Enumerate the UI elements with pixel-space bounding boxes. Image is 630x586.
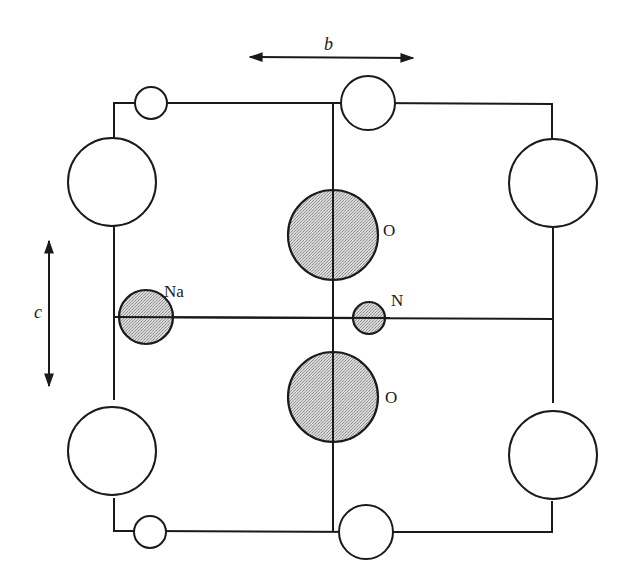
b-axis-indicator: b: [250, 34, 413, 58]
bottom-edge-right: [366, 501, 552, 532]
atom-medium-top-center: [341, 76, 395, 130]
atom-medium-bottom-center: [339, 505, 393, 559]
atom-small-top-left: [135, 87, 167, 119]
atom-large-lower-left: [68, 407, 156, 495]
sodium-label: Na: [164, 282, 184, 301]
atom-large-lower-right: [509, 411, 597, 499]
top-edge-right: [368, 103, 552, 138]
crystal-structure-diagram: b c: [0, 0, 630, 586]
c-axis-indicator: c: [34, 241, 49, 386]
atom-large-upper-right: [509, 139, 597, 227]
atom-small-bottom-left: [134, 516, 166, 548]
b-axis-label: b: [324, 34, 333, 54]
c-axis-label: c: [34, 302, 42, 322]
nitrogen-label: N: [391, 291, 403, 310]
center-horizontal-overlay: [114, 317, 390, 318]
oxygen-upper-label: O: [383, 221, 395, 240]
atom-large-upper-left: [68, 138, 156, 226]
oxygen-lower-label: O: [385, 388, 397, 407]
shaded-atoms: [119, 190, 385, 442]
b-axis-arrow: [250, 57, 413, 58]
